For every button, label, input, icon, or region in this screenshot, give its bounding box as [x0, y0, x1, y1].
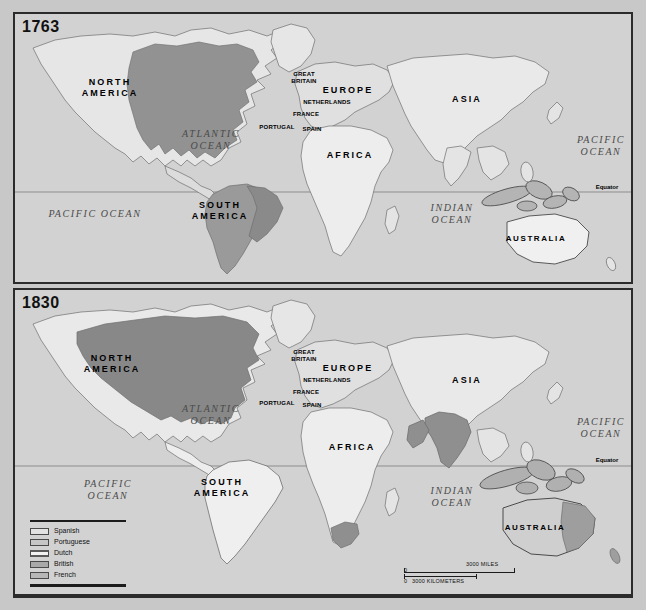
figure-bottom-rule	[13, 596, 633, 598]
label-north-america: NORTHAMERICA	[84, 353, 141, 375]
legend-bottom-rule	[30, 584, 126, 587]
label-equator: Equator	[596, 184, 619, 190]
label-atlantic-ocean: ATLANTICOCEAN	[182, 403, 240, 427]
legend-item-portuguese: Portuguese	[30, 537, 126, 547]
label-portugal: PORTUGAL	[259, 400, 294, 407]
label-asia: ASIA	[452, 94, 482, 105]
label-spain: SPAIN	[303, 402, 322, 409]
label-australia: AUSTRALIA	[506, 233, 567, 244]
label-netherlands: NETHERLANDS	[303, 377, 351, 384]
legend-label-portuguese: Portuguese	[54, 538, 90, 546]
label-spain: SPAIN	[303, 126, 322, 133]
scale-miles-label: 3000 MILES	[466, 561, 498, 567]
label-great-britain: GREATBRITAIN	[291, 71, 316, 85]
legend-swatch-british	[30, 561, 49, 568]
label-africa: AFRICA	[329, 442, 376, 453]
world-map-figure: 1763 NORTHAMERICA SOUTHAMERICA EUROPE AF…	[0, 0, 646, 610]
map-year-label-1830: 1830	[22, 295, 60, 311]
label-europe: EUROPE	[323, 85, 374, 96]
legend-item-british: British	[30, 559, 126, 569]
legend-label-dutch: Dutch	[54, 549, 72, 557]
label-france: FRANCE	[293, 389, 319, 396]
label-asia: ASIA	[452, 375, 482, 386]
label-europe: EUROPE	[323, 363, 374, 374]
legend-swatch-portuguese	[30, 539, 49, 546]
label-netherlands: NETHERLANDS	[303, 99, 351, 106]
scale-bar-kilometers: 0 3000 KILOMETERS	[404, 574, 554, 588]
legend-label-spanish: Spanish	[54, 527, 79, 535]
label-equator: Equator	[596, 457, 619, 463]
label-south-america: SOUTHAMERICA	[192, 200, 249, 222]
label-pacific-ocean-east: PACIFICOCEAN	[577, 134, 625, 158]
label-france: FRANCE	[293, 111, 319, 118]
legend-item-spanish: Spanish	[30, 526, 126, 536]
legend-label-british: British	[54, 560, 73, 568]
map-scale-bar: 0 3000 MILES 0 3000 KILOMETERS	[404, 561, 554, 588]
label-pacific-ocean-east: PACIFICOCEAN	[577, 416, 625, 440]
map-panel-1763: 1763 NORTHAMERICA SOUTHAMERICA EUROPE AF…	[13, 12, 633, 284]
scale-bar-miles: 0 3000 MILES	[404, 561, 554, 574]
label-indian-ocean: INDIANOCEAN	[431, 485, 474, 509]
label-south-america: SOUTHAMERICA	[194, 477, 251, 499]
label-portugal: PORTUGAL	[259, 124, 294, 131]
legend-swatch-french	[30, 572, 49, 579]
map-year-label-1763: 1763	[22, 19, 60, 35]
label-indian-ocean: INDIANOCEAN	[431, 202, 474, 226]
legend-item-dutch: Dutch	[30, 548, 126, 558]
label-atlantic-ocean: ATLANTICOCEAN	[182, 128, 240, 152]
map-legend: Spanish Portuguese Dutch British French	[30, 520, 126, 587]
legend-label-french: French	[54, 571, 76, 579]
label-pacific-ocean-west: PACIFICOCEAN	[84, 478, 132, 502]
scale-km-label: 3000 KILOMETERS	[412, 578, 464, 584]
legend-items: Spanish Portuguese Dutch British French	[30, 522, 126, 584]
label-pacific-ocean-west: PACIFIC OCEAN	[48, 208, 141, 220]
legend-item-french: French	[30, 570, 126, 580]
legend-swatch-spanish	[30, 528, 49, 535]
label-africa: AFRICA	[327, 150, 374, 161]
legend-swatch-dutch	[30, 550, 49, 557]
label-north-america: NORTHAMERICA	[82, 77, 139, 99]
label-great-britain: GREATBRITAIN	[291, 349, 316, 363]
label-australia: AUSTRALIA	[505, 522, 566, 533]
